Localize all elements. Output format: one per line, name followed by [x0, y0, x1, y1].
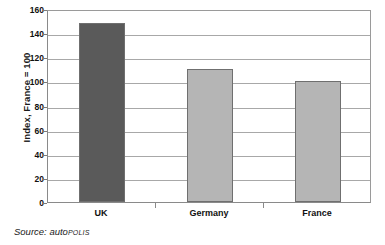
x-axis-label-uk: UK: [47, 208, 155, 218]
x-axis-label-france: France: [263, 208, 371, 218]
y-axis-tick-label: 80: [8, 102, 44, 112]
y-axis-title: Index, France = 100: [21, 28, 32, 168]
bar-germany: [187, 69, 233, 202]
x-axis-label-germany: Germany: [155, 208, 263, 218]
y-axis-tick-label: 60: [8, 126, 44, 136]
bar-uk: [79, 23, 125, 202]
source-brand-suffix: POLIS: [68, 229, 90, 236]
y-axis-tick-mark: [43, 203, 47, 204]
y-axis-tick-label: 40: [8, 150, 44, 160]
bar-chart-figure: Index, France = 100 02040608010012014016…: [0, 0, 385, 245]
plot-area: [47, 10, 371, 203]
y-axis-tick-label: 20: [8, 174, 44, 184]
y-axis-tick-label: 120: [8, 53, 44, 63]
y-axis-tick-label: 140: [8, 29, 44, 39]
bar-france: [295, 81, 341, 202]
source-brand-name: auto: [49, 226, 68, 237]
y-axis-tick-label: 0: [8, 198, 44, 208]
source-caption: Source: autoPOLIS: [14, 226, 90, 237]
y-axis-tick-label: 160: [8, 5, 44, 15]
y-axis-tick-label: 100: [8, 77, 44, 87]
source-prefix: Source:: [14, 226, 49, 237]
